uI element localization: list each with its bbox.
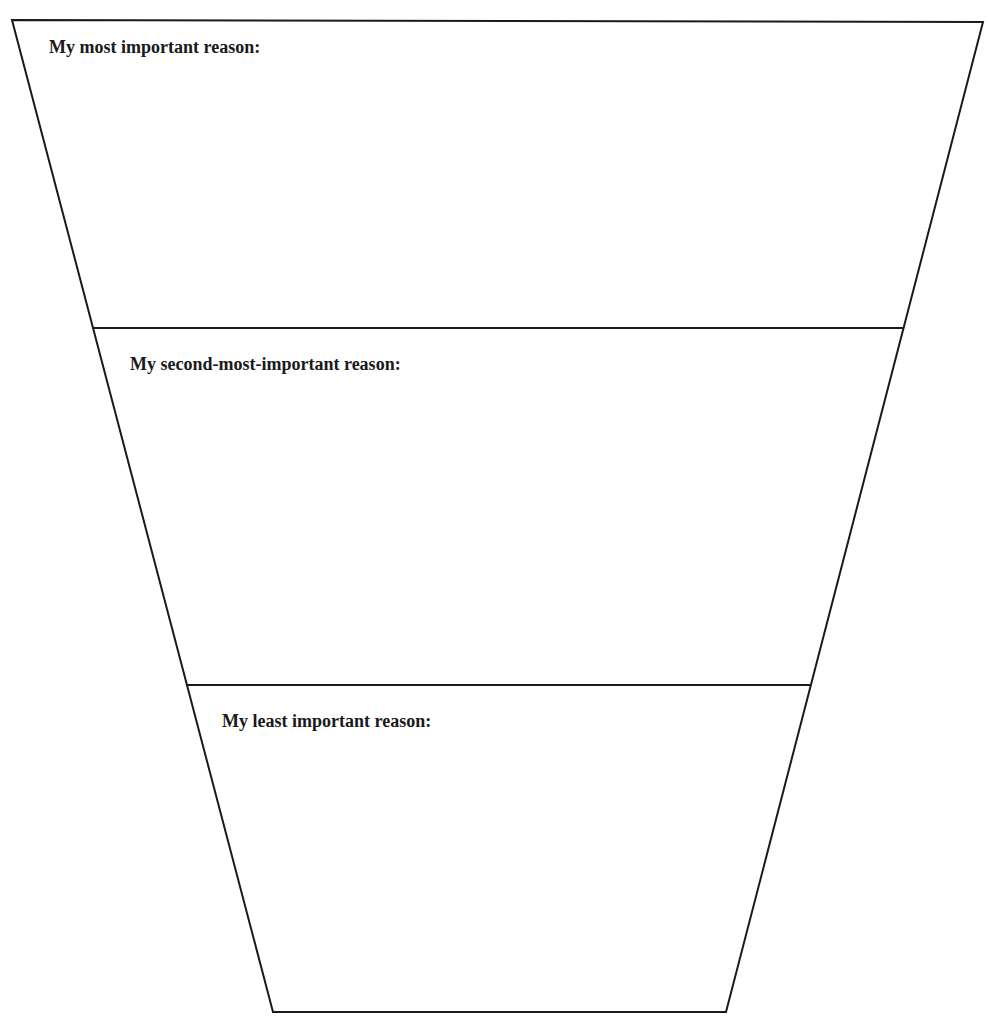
most-important-reason-input[interactable] [70, 70, 914, 319]
least-important-reason-input[interactable] [265, 745, 739, 999]
second-most-important-reason-input[interactable] [150, 388, 834, 676]
second-most-important-reason-label: My second-most-important reason: [130, 355, 401, 373]
most-important-reason-label: My most important reason: [49, 38, 260, 56]
least-important-reason-label: My least important reason: [222, 712, 431, 730]
